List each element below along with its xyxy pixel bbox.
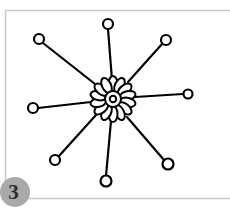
flower <box>90 76 137 122</box>
spoke-lower-left <box>59 115 96 156</box>
circle-right <box>184 90 193 99</box>
spoke-bottom <box>106 121 111 176</box>
spoke-right <box>135 94 183 97</box>
circle-bottom <box>101 176 112 187</box>
circle-top <box>103 19 113 29</box>
spoke-upper-left <box>43 43 95 84</box>
step-number: 3 <box>8 180 19 205</box>
illustration-frame <box>0 0 230 212</box>
circle-lower-left <box>50 155 60 165</box>
spoke-top <box>108 29 112 80</box>
circle-left <box>28 103 38 113</box>
spoke-left <box>38 102 91 108</box>
circle-lower-right <box>163 159 174 170</box>
circle-upper-left <box>34 34 44 44</box>
circle-upper-right <box>161 35 171 45</box>
flower-center-inner <box>110 96 116 102</box>
step-number-badge: 3 <box>0 177 30 207</box>
spoke-upper-right <box>128 44 162 82</box>
spoke-lower-right <box>127 117 164 160</box>
